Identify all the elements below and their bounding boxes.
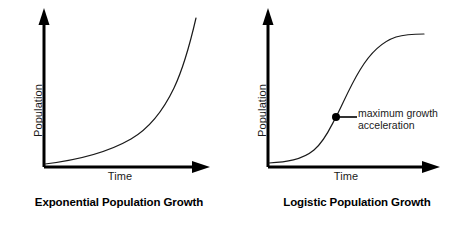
panel-caption: Exponential Population Growth bbox=[0, 196, 238, 208]
annotation-line-1: maximum growth bbox=[358, 108, 438, 120]
x-axis-arrowhead-icon bbox=[422, 161, 440, 173]
x-axis-label: Time bbox=[80, 170, 160, 182]
y-axis-label: Population bbox=[256, 84, 268, 137]
panel-caption: Logistic Population Growth bbox=[238, 196, 476, 208]
x-axis-arrowhead-icon bbox=[192, 161, 210, 173]
logistic-curve bbox=[269, 34, 424, 163]
annotation-text: maximum growth acceleration bbox=[358, 108, 438, 131]
panel-exponential: Population Time Exponential Population G… bbox=[0, 0, 238, 229]
inflection-point-marker bbox=[332, 113, 340, 121]
y-axis-arrowhead-icon bbox=[263, 8, 274, 25]
annotation-line-2: acceleration bbox=[358, 120, 438, 132]
panel-logistic: Population Time Logistic Population Grow… bbox=[238, 0, 476, 229]
figure-root: Population Time Exponential Population G… bbox=[0, 0, 476, 229]
exponential-curve bbox=[45, 18, 196, 164]
y-axis-label: Population bbox=[32, 84, 44, 137]
x-axis-label: Time bbox=[306, 170, 386, 182]
y-axis-arrowhead-icon bbox=[39, 8, 50, 25]
